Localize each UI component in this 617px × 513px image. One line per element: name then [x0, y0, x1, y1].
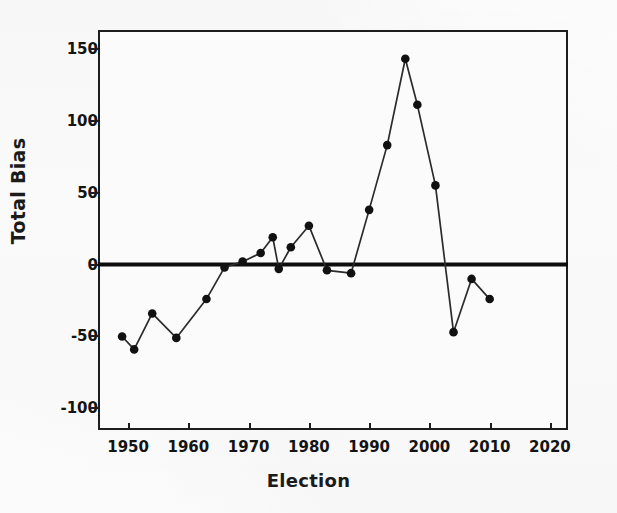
data-point-marker	[323, 266, 332, 275]
y-tick-mark	[91, 192, 98, 194]
y-tick-mark	[91, 264, 98, 266]
data-point-marker	[305, 221, 314, 230]
x-axis-ticks: 19501960197019801990200020102020	[98, 430, 568, 470]
y-tick-mark	[91, 335, 98, 337]
data-series-layer	[98, 30, 568, 430]
data-point-marker	[130, 345, 139, 354]
series-line	[122, 59, 490, 350]
y-axis-title: Total Bias	[7, 81, 29, 301]
chart-title	[0, 0, 617, 6]
data-point-marker	[268, 233, 277, 242]
chart-figure: 150100500-50-100 19501960197019801990200…	[0, 0, 617, 513]
data-point-marker	[347, 269, 356, 278]
y-tick-mark	[91, 120, 98, 122]
data-point-marker	[202, 295, 211, 304]
data-point-marker	[274, 265, 283, 274]
data-point-marker	[449, 328, 458, 337]
data-point-marker	[238, 257, 247, 266]
data-point-marker	[485, 295, 494, 304]
data-point-marker	[413, 101, 422, 110]
data-point-marker	[401, 54, 410, 63]
x-tick-label: 2020	[515, 438, 585, 456]
x-axis-title: Election	[0, 470, 617, 491]
data-point-marker	[172, 334, 181, 343]
data-point-marker	[148, 309, 157, 318]
data-point-marker	[220, 263, 229, 272]
data-point-marker	[287, 243, 296, 252]
data-point-marker	[383, 141, 392, 150]
data-point-marker	[431, 181, 440, 190]
y-tick-mark	[91, 407, 98, 409]
data-point-marker	[118, 332, 127, 341]
y-tick-mark	[91, 48, 98, 50]
data-point-marker	[256, 249, 265, 258]
data-point-marker	[365, 206, 374, 215]
data-point-marker	[467, 275, 476, 284]
